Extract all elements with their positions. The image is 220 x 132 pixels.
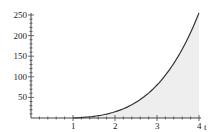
y-tick-label: 50 xyxy=(18,92,28,102)
y-tick-label: 200 xyxy=(14,31,28,41)
x-tick-label: 1 xyxy=(71,121,76,131)
chart: 123450100150200250t xyxy=(0,0,220,132)
y-tick-label: 100 xyxy=(14,72,28,82)
x-tick-label: 4 xyxy=(197,121,202,131)
x-tick-label: 2 xyxy=(113,121,118,131)
x-axis-label: t xyxy=(204,122,207,132)
x-tick-label: 3 xyxy=(155,121,160,131)
y-tick-label: 250 xyxy=(14,10,28,20)
y-tick-label: 150 xyxy=(14,51,28,61)
